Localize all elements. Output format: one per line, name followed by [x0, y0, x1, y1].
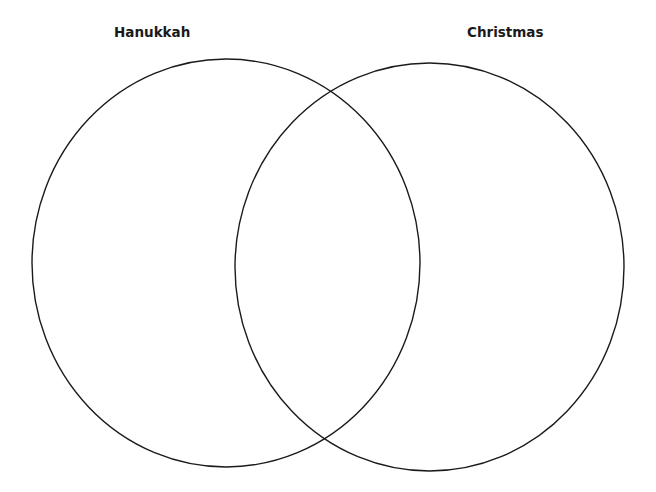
- hanukkah-circle: [32, 59, 420, 467]
- christmas-circle: [235, 63, 624, 471]
- venn-diagram: [0, 0, 656, 492]
